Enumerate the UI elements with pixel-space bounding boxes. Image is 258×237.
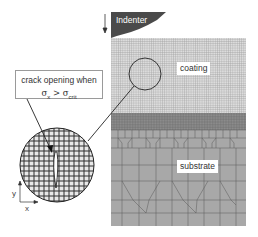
x-axis-label: x	[25, 204, 29, 213]
zoomed-mesh-detail	[20, 128, 95, 203]
substrate-mesh	[111, 130, 246, 226]
sigma-x-subscript: x	[47, 94, 50, 100]
coating-label: coating	[177, 62, 210, 75]
comparison-operator: >	[53, 88, 60, 98]
crack-condition-callout: crack opening when σx > σcrit	[15, 70, 103, 99]
sigma-crit-subscript: crit	[69, 94, 77, 100]
callout-text: crack opening when	[16, 75, 102, 85]
indenter-label: Indenter	[116, 15, 147, 25]
y-axis-label: y	[12, 189, 16, 198]
diagram-canvas	[0, 0, 258, 237]
stress-condition: σx > σcrit	[16, 88, 102, 100]
coating-mesh	[111, 38, 246, 113]
substrate-label: substrate	[177, 160, 218, 173]
fem-crack-diagram: Indenter coating substrate crack opening…	[0, 0, 258, 237]
load-arrow-icon	[103, 14, 107, 33]
interface-mesh	[111, 113, 246, 130]
